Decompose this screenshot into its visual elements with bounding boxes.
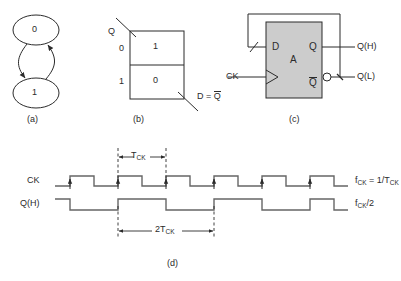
transition-1-to-0 — [46, 45, 55, 79]
d-equation-rhs: Q — [214, 92, 221, 101]
table-header-q: Q — [108, 27, 115, 36]
block-label-a: A — [290, 55, 297, 65]
waveform-qh — [55, 199, 348, 210]
state-label-1: 1 — [32, 88, 37, 97]
pin-label-q: Q — [309, 42, 317, 52]
signal-label-ck: CK — [27, 176, 40, 185]
state-label-0: 0 — [32, 25, 37, 34]
caption-c: (c) — [289, 114, 300, 124]
label-q-low: Q(L) — [357, 72, 375, 81]
tck-label: TCK — [131, 151, 146, 160]
panel-d-waveforms — [55, 176, 348, 210]
table-present-1: 1 — [119, 77, 124, 86]
inversion-bubble-icon — [323, 73, 331, 81]
header-slash — [116, 18, 136, 37]
label-q-high: Q(H) — [357, 42, 377, 51]
d-equation-lhs: D = — [197, 91, 214, 101]
waveform-ck — [55, 176, 348, 186]
caption-d: (d) — [167, 258, 178, 268]
freq-label-qh: fCK/2 — [355, 199, 374, 208]
caption-a: (a) — [27, 114, 38, 124]
pin-label-qbar: Q — [309, 78, 317, 88]
panel-b-table — [116, 18, 198, 111]
figure-canvas — [0, 0, 401, 281]
table-present-0: 0 — [119, 44, 124, 53]
d-equation: D = Q — [197, 92, 221, 101]
two-tck-label: 2TCK — [155, 225, 175, 234]
transition-0-to-1 — [18, 44, 27, 78]
freq-label-ck: fCK = 1/TCK — [355, 176, 399, 185]
table-next-0: 0 — [153, 76, 158, 85]
pin-label-d: D — [272, 42, 279, 52]
caption-b: (b) — [133, 114, 144, 124]
table-next-1: 1 — [153, 42, 158, 51]
signal-label-qh: Q(H) — [20, 199, 40, 208]
label-ck-input: CK — [226, 72, 239, 81]
equation-slash — [178, 92, 198, 111]
